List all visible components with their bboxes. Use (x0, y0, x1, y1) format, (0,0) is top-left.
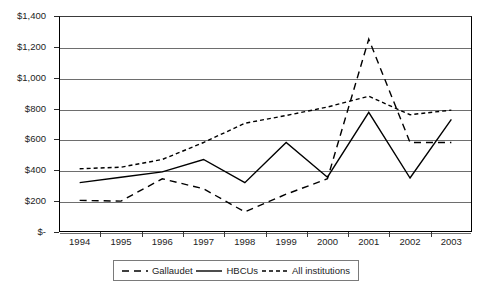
legend-label: Gallaudet (152, 266, 193, 276)
y-tick-label: $200 (25, 196, 46, 206)
x-tick-mark (142, 232, 143, 237)
x-tick-mark (431, 232, 432, 237)
line-chart: $1,400$1,200$1,000$800$600$400$200$- 199… (0, 0, 486, 289)
solid-line-swatch (196, 267, 222, 275)
y-tick-label: $1,400 (17, 11, 46, 21)
y-axis: $1,400$1,200$1,000$800$600$400$200$- (0, 0, 54, 250)
x-tick-mark (183, 232, 184, 237)
y-tick-label: $- (38, 227, 46, 237)
y-tick-label: $400 (25, 165, 46, 175)
series-line-hbcus (80, 112, 452, 182)
y-tick-label: $600 (25, 134, 46, 144)
x-tick-label: 1994 (59, 236, 100, 248)
x-tick-mark (348, 232, 349, 237)
y-tick-label: $800 (25, 104, 46, 114)
legend-entry-hbcus[interactable]: HBCUs (196, 266, 258, 276)
x-tick-label: 1997 (183, 236, 224, 248)
dotted-line-swatch (262, 267, 288, 275)
x-tick-mark (100, 232, 101, 237)
series-layer (59, 16, 472, 232)
series-line-gallaudet (80, 39, 452, 212)
legend-label: HBCUs (226, 266, 258, 276)
x-tick-label: 1999 (266, 236, 307, 248)
x-tick-mark (266, 232, 267, 237)
x-tick-mark (389, 232, 390, 237)
x-tick-label: 1995 (100, 236, 141, 248)
x-tick-mark (224, 232, 225, 237)
y-tick-mark (54, 232, 59, 233)
legend-entry-gallaudet[interactable]: Gallaudet (122, 266, 193, 276)
legend-entry-all-institutions[interactable]: All institutions (262, 266, 350, 276)
x-tick-mark (307, 232, 308, 237)
legend-label: All institutions (292, 266, 350, 276)
x-tick-label: 1998 (224, 236, 265, 248)
y-tick-label: $1,000 (17, 73, 46, 83)
dashed-line-swatch (122, 267, 148, 275)
x-tick-label: 2002 (389, 236, 430, 248)
y-tick-label: $1,200 (17, 42, 46, 52)
x-tick-label: 2000 (307, 236, 348, 248)
chart-legend: GallaudetHBCUsAll institutions (113, 260, 359, 281)
x-tick-label: 2003 (431, 236, 472, 248)
x-tick-label: 2001 (348, 236, 389, 248)
x-tick-label: 1996 (142, 236, 183, 248)
x-axis: 1994199519961997199819992000200120022003 (59, 236, 472, 254)
